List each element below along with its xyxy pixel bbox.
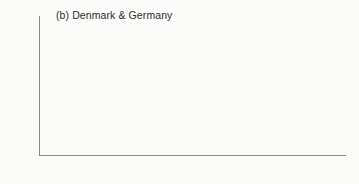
x-axis-line <box>39 155 346 156</box>
y-axis <box>0 0 36 184</box>
bar-chart-figure: (b) Denmark & Germany <box>0 0 359 184</box>
plot-area <box>40 17 345 155</box>
